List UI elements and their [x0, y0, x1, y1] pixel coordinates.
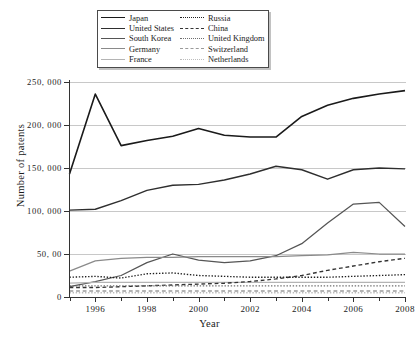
y-axis-tick	[64, 168, 70, 169]
x-axis-tick	[379, 297, 380, 301]
x-axis-tick	[250, 297, 251, 302]
y-axis-tick-label: 150, 000	[4, 163, 62, 173]
x-axis-tick	[302, 297, 303, 302]
y-axis-tick	[64, 211, 70, 212]
y-axis-tick-label: 50, 00	[4, 249, 62, 259]
y-axis-tick	[64, 254, 70, 255]
x-axis-tick-label: 2004	[282, 304, 322, 314]
x-axis-tick	[224, 297, 225, 301]
x-axis-tick	[405, 297, 406, 302]
x-axis-tick-label: 2006	[333, 304, 373, 314]
x-axis-line	[69, 297, 406, 298]
series-south-korea	[70, 202, 406, 286]
y-axis-line	[69, 80, 70, 298]
x-axis-tick	[199, 297, 200, 302]
x-axis-tick	[95, 297, 96, 302]
x-axis-tick	[173, 297, 174, 301]
series-japan	[70, 91, 406, 174]
y-axis-tick-label: 0	[4, 292, 62, 302]
x-axis-tick	[70, 297, 71, 301]
x-axis-tick-label: 2008	[385, 304, 419, 314]
x-axis-tick-label: 2000	[179, 304, 219, 314]
plot-area	[0, 0, 419, 339]
x-axis-tick-label: 2002	[230, 304, 270, 314]
x-axis-tick	[147, 297, 148, 302]
y-axis-tick	[64, 125, 70, 126]
y-axis-tick-label: 200, 000	[4, 120, 62, 130]
y-axis-tick	[64, 82, 70, 83]
x-axis-tick	[353, 297, 354, 302]
x-axis-tick-label: 1996	[75, 304, 115, 314]
series-china	[70, 258, 406, 287]
x-axis-tick	[276, 297, 277, 301]
y-axis-tick-label: 100, 000	[4, 206, 62, 216]
x-axis-title: Year	[0, 318, 419, 329]
x-axis-tick	[121, 297, 122, 301]
patents-line-chart: Japan United States South Korea Germany …	[0, 0, 419, 339]
y-axis-tick-label: 250, 000	[4, 77, 62, 87]
x-axis-tick-label: 1998	[127, 304, 167, 314]
x-axis-tick	[328, 297, 329, 301]
y-axis-title: Number of patents	[15, 96, 26, 236]
